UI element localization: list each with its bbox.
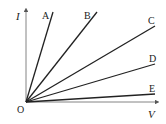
line-e-label: E [149, 83, 155, 94]
line-a-label: A [42, 10, 50, 21]
x-axis-label: V [148, 108, 156, 120]
line-d [26, 64, 155, 102]
line-d-label: D [149, 53, 156, 64]
line-b-label: B [84, 10, 91, 21]
iv-graph: I V O A B C D E [0, 0, 166, 124]
origin-label: O [17, 104, 24, 115]
line-e [26, 94, 155, 102]
line-c-label: C [148, 15, 155, 26]
line-b [26, 12, 97, 102]
y-axis-label: I [15, 10, 21, 22]
